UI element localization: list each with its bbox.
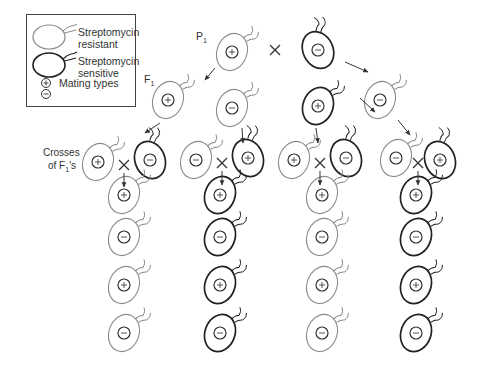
legend-resistant-label-2: resistant bbox=[78, 38, 118, 50]
resistant-cell-icon bbox=[33, 24, 77, 49]
p1-letter: P bbox=[196, 30, 203, 42]
legend-mating-types-label: Mating types bbox=[59, 77, 119, 89]
legend-icons bbox=[0, 0, 482, 371]
sensitive-cell-icon bbox=[33, 52, 77, 77]
p1-subscript: 1 bbox=[203, 37, 207, 44]
crosses-label-1: Crosses bbox=[43, 147, 80, 159]
f1-label: F1 bbox=[144, 73, 154, 90]
f1-subscript: 1 bbox=[150, 80, 154, 87]
legend-sensitive-label-1: Streptomycin bbox=[78, 55, 139, 67]
crosses-suffix: 's bbox=[69, 160, 76, 171]
plus-mating-icon bbox=[42, 79, 51, 88]
p1-label: P1 bbox=[196, 30, 207, 47]
crosses-of-f: of F bbox=[48, 160, 65, 171]
minus-mating-icon bbox=[42, 90, 51, 99]
legend-resistant-label-1: Streptomycin bbox=[78, 26, 139, 38]
crosses-label-2: of F1's bbox=[48, 160, 76, 176]
